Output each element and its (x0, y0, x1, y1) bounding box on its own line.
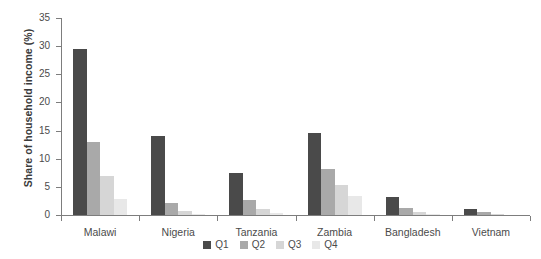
bar (426, 214, 440, 215)
legend-swatch (203, 241, 211, 249)
y-axis-tick-label: 35 (22, 13, 50, 23)
bar-group (151, 18, 205, 215)
bar (321, 169, 335, 215)
legend: Q1Q2Q3Q4 (0, 240, 541, 250)
bar (178, 211, 192, 216)
bar-chart: Share of household income (%) 0510152025… (0, 0, 541, 259)
x-axis-tick-mark (530, 216, 531, 221)
bar (229, 173, 243, 215)
legend-item[interactable]: Q2 (240, 240, 265, 250)
bar (243, 200, 257, 215)
legend-swatch (240, 241, 248, 249)
bar-group (308, 18, 362, 215)
bar-group (73, 18, 127, 215)
y-axis-tick-label: 20 (22, 97, 50, 107)
bar (256, 209, 270, 215)
plot-area (61, 18, 530, 215)
chart-title (0, 0, 541, 7)
y-axis-tick-label: 5 (22, 182, 50, 192)
legend-item[interactable]: Q3 (276, 240, 301, 250)
bar (413, 212, 427, 215)
legend-swatch (276, 241, 284, 249)
y-axis-tick-label: 25 (22, 69, 50, 79)
bar (335, 185, 349, 215)
y-axis-tick-label: 30 (22, 41, 50, 51)
x-axis-tick-mark (452, 216, 453, 221)
bar-group (464, 18, 518, 215)
legend-item[interactable]: Q4 (312, 240, 337, 250)
bar (270, 213, 284, 215)
legend-label: Q4 (324, 240, 337, 250)
bar (87, 142, 101, 215)
bar (192, 214, 206, 215)
bar (100, 176, 114, 215)
bar (165, 203, 179, 215)
y-axis-tick: 0 (0, 215, 541, 216)
legend-swatch (312, 241, 320, 249)
x-axis-category-label: Zambia (317, 226, 352, 238)
bar (114, 199, 128, 215)
bar-group (386, 18, 440, 215)
bar (348, 196, 362, 215)
y-axis-tick-label: 10 (22, 154, 50, 164)
legend-label: Q1 (215, 240, 228, 250)
x-axis-category-label: Vietnam (472, 226, 510, 238)
x-axis-tick-mark (296, 216, 297, 221)
y-axis-tick-label: 15 (22, 126, 50, 136)
bar (477, 212, 491, 215)
x-axis-category-label: Tanzania (235, 226, 277, 238)
bar (151, 136, 165, 215)
bar (491, 214, 505, 215)
x-axis-category-label: Bangladesh (385, 226, 440, 238)
x-axis-tick-mark (61, 216, 62, 221)
x-axis-tick-mark (374, 216, 375, 221)
x-axis-tick-mark (217, 216, 218, 221)
x-axis-category-label: Malawi (84, 226, 117, 238)
y-axis-tick-label: 0 (22, 210, 50, 220)
bar (308, 133, 322, 215)
legend-label: Q3 (288, 240, 301, 250)
x-axis-category-label: Nigeria (162, 226, 195, 238)
bar (399, 208, 413, 215)
legend-item[interactable]: Q1 (203, 240, 228, 250)
x-axis-tick-mark (139, 216, 140, 221)
bar (386, 197, 400, 215)
bar (464, 209, 478, 215)
legend-label: Q2 (252, 240, 265, 250)
bar-group (229, 18, 283, 215)
bar (73, 49, 87, 215)
